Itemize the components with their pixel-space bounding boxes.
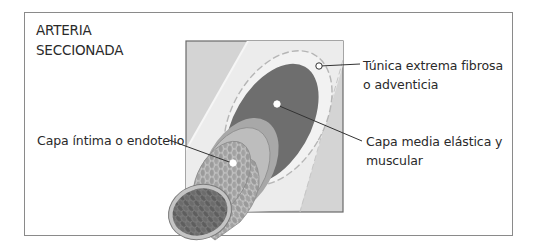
marker-media [274,101,280,107]
label-intima: Capa íntima o endotelio [37,131,184,150]
label-adventicia-line-1: Túnica extrema fibrosa [363,56,503,75]
marker-adventicia [316,63,322,69]
label-adventicia-line-2: o adventicia [363,75,503,94]
label-intima-line-1: Capa íntima o endotelio [37,131,184,150]
label-adventicia: Túnica extrema fibrosa o adventicia [363,56,503,94]
marker-intima [230,160,236,166]
label-media-line-1: Capa media elástica y [366,132,502,151]
label-media-line-2: muscular [366,151,502,170]
label-media: Capa media elástica y muscular [366,132,502,170]
artery-illustration [0,0,541,248]
